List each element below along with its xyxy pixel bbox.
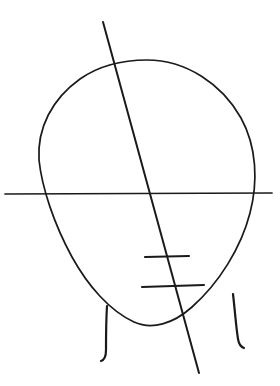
nose-guide-line <box>145 256 189 257</box>
eye-line-horizontal <box>5 193 272 194</box>
sketch-canvas <box>0 0 280 386</box>
sketch-svg <box>0 0 280 386</box>
